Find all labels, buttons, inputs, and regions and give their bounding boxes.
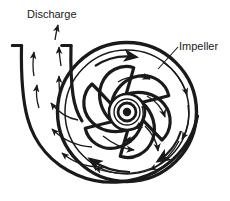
flow-arrow [36,85,39,108]
flow-arrow [59,76,60,96]
flow-arrow [55,25,58,40]
label-impeller: Impeller [179,41,218,52]
discharge-flow-arrows [33,25,61,108]
flow-arrow [182,105,189,139]
label-discharge: Discharge [27,9,77,20]
hub-shaft-dot [123,108,131,116]
centrifugal-pump-diagram [0,0,230,201]
rotation-arrow [95,56,136,66]
figure-canvas: Discharge Impeller [0,0,230,201]
flow-arrow [33,52,34,76]
flow-arrow [59,47,61,66]
